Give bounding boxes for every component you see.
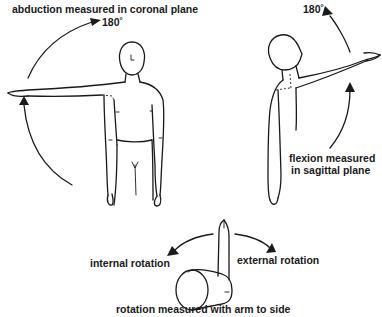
abduction-label: abduction measured in coronal plane — [12, 3, 198, 15]
abduction-figure — [8, 18, 164, 206]
rotation-caption: rotation measured with arm to side — [116, 303, 290, 315]
abduction-angle: 180˚ — [102, 16, 123, 28]
flexion-label-line2: in sagittal plane — [291, 164, 370, 176]
flexion-angle: 180˚ — [303, 3, 324, 15]
internal-rotation-label: internal rotation — [90, 257, 170, 269]
external-rotation-label: external rotation — [237, 254, 319, 266]
flexion-label-line1: flexion measured — [289, 152, 375, 164]
